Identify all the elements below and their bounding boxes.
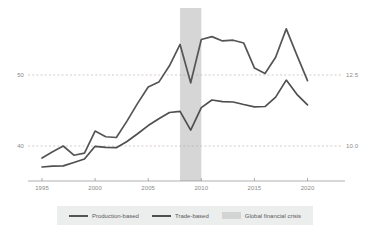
y-left-tick-label-50: 50	[8, 72, 24, 78]
x-tick-label-2015: 2015	[248, 185, 262, 191]
series-line-production-based	[42, 29, 308, 158]
y-left-tick-label-40: 40	[8, 143, 24, 149]
chart-legend: Production-based Trade-based Global fina…	[57, 206, 313, 225]
chart-plot-area	[0, 0, 370, 195]
y-right-tick-label-10.0: 10.0	[346, 143, 358, 149]
x-tick-label-2020: 2020	[301, 185, 315, 191]
x-tick-label-1995: 1995	[35, 185, 49, 191]
chart-container: 199520002005201020152020405010.012.5 Pro…	[0, 0, 370, 239]
legend-label-trade-based: Trade-based	[175, 213, 209, 219]
crisis-shaded-band	[180, 8, 201, 181]
x-tick-label-2005: 2005	[141, 185, 155, 191]
x-tick-label-2010: 2010	[194, 185, 208, 191]
y-right-tick-label-12.5: 12.5	[346, 72, 358, 78]
legend-line-icon-trade	[152, 215, 171, 217]
legend-swatch-icon-crisis	[222, 212, 241, 219]
legend-label-production-based: Production-based	[92, 213, 139, 219]
legend-item-production-based[interactable]: Production-based	[69, 213, 139, 219]
legend-item-global-financial-crisis[interactable]: Global financial crisis	[222, 212, 301, 219]
x-tick-label-2000: 2000	[88, 185, 102, 191]
legend-line-icon-production	[69, 215, 88, 217]
legend-label-global-financial-crisis: Global financial crisis	[245, 213, 301, 219]
legend-item-trade-based[interactable]: Trade-based	[152, 213, 209, 219]
